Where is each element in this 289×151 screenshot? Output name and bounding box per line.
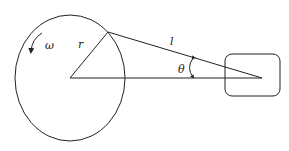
connecting-rod (108, 32, 262, 78)
radius-label: r (78, 38, 84, 51)
length-label: l (170, 35, 174, 48)
angle-arc (190, 58, 194, 77)
angle-label: θ (178, 63, 185, 76)
slider-crank-diagram: ω r l θ (0, 0, 289, 151)
rotation-arrow-icon (31, 33, 42, 51)
omega-label: ω (45, 39, 54, 52)
crank-radius (70, 32, 108, 78)
